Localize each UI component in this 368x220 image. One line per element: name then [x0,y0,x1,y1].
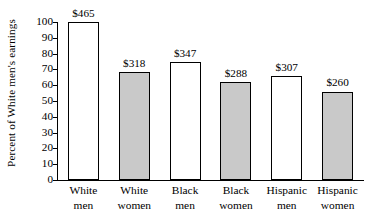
y-axis-tick-label: 30 [42,127,53,138]
bar [119,72,150,180]
x-axis-category-labels: WhitemenWhitewomenBlackmenBlackwomenHisp… [58,183,363,217]
y-axis-tick-label: 100 [36,16,53,27]
bar-value-label: $260 [326,77,348,88]
bar-value-label: $288 [225,68,247,79]
bar [322,92,353,180]
bar-group: $288 [220,22,251,180]
x-axis-category-label: Hispanicmen [261,183,312,213]
category-line-1: Hispanic [312,183,363,198]
y-axis-tick-label: 10 [42,159,53,170]
bar-value-label: $347 [174,48,196,59]
y-axis-tick-label: 70 [42,64,53,75]
bar [68,22,99,180]
bar-chart: Percent of White men's earnings 01020304… [0,0,368,220]
bar [170,62,201,180]
y-axis-tick-label: 60 [42,80,53,91]
category-line-2: men [261,198,312,213]
y-axis-tick-labels: 0102030405060708090100 [24,0,55,185]
y-axis-tick-label: 20 [42,143,53,154]
y-axis-tick-label: 90 [42,32,53,43]
x-axis-category-label: Hispanicwomen [312,183,363,213]
category-line-2: women [211,198,262,213]
x-axis-category-label: Whitemen [58,183,109,213]
y-axis-tick-label: 40 [42,111,53,122]
bar-series: $465$318$347$288$307$260 [58,22,363,180]
x-axis-category-label: Blackmen [160,183,211,213]
category-line-1: Black [160,183,211,198]
bar [220,82,251,180]
bar-value-label: $465 [72,8,94,19]
category-line-1: Hispanic [261,183,312,198]
y-axis-title-text: Percent of White men's earnings [5,19,17,167]
y-axis-tick-label: 80 [42,48,53,59]
category-line-1: Black [211,183,262,198]
bar-value-label: $318 [123,58,145,69]
category-line-2: men [160,198,211,213]
y-axis-tick-label: 50 [42,95,53,106]
bar [271,76,302,180]
bar-group: $465 [68,22,99,180]
bar-group: $307 [271,22,302,180]
category-line-1: White [109,183,160,198]
category-line-2: men [58,198,109,213]
y-axis-title: Percent of White men's earnings [0,0,22,185]
category-line-2: women [312,198,363,213]
bar-group: $260 [322,22,353,180]
x-axis-category-label: Whitewomen [109,183,160,213]
category-line-1: White [58,183,109,198]
bar-value-label: $307 [276,62,298,73]
bar-group: $347 [170,22,201,180]
x-axis-category-label: Blackwomen [211,183,262,213]
bar-group: $318 [119,22,150,180]
category-line-2: women [109,198,160,213]
